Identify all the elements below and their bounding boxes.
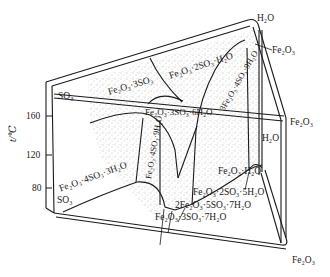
- axis-label-temperature: t/℃: [8, 125, 18, 142]
- corner-label-fe2o3-mid: Fe₂O₃: [290, 118, 313, 128]
- corner-label-so3-bottom: SO₃: [57, 196, 72, 206]
- tick-160: 160: [26, 112, 40, 122]
- phase-label-fe2o3-h2o: Fe₂O₃·H₂O: [218, 167, 261, 177]
- corner-label-h2o-top: H₂O: [257, 14, 274, 24]
- tick-80: 80: [32, 184, 42, 194]
- corner-label-fe2o3-bottom: Fe₂O₃: [292, 256, 315, 266]
- phase-label-fe2o3-2so3-5h2o: Fe₂O₃·2SO₃·5H₂O: [193, 188, 264, 198]
- corner-label-so3-top: SO₃: [58, 92, 73, 102]
- corner-label-fe2o3-top: Fe₂O₃: [272, 46, 295, 56]
- tick-120: 120: [26, 151, 40, 161]
- phase-diagram-graphic: [0, 0, 330, 277]
- phase-label-2fe2o3-5so3-7h2o: 2Fe₂O₃·5SO₃·7H₂O: [175, 201, 251, 211]
- phase-label-fe2o3-3so3-7h2o: Fe₂O₃·3SO₃·7H₂O: [155, 213, 226, 223]
- corner-label-h2o-mid: H₂O: [262, 134, 279, 144]
